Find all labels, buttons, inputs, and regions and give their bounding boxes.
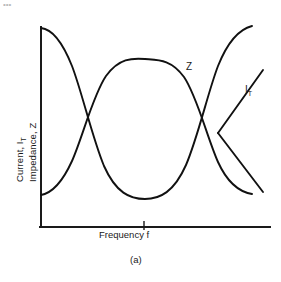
curve-current-it [41, 59, 252, 195]
curve-impedance-z-tail [218, 133, 263, 192]
y-axis-label-line-current: Current, IT [14, 137, 27, 182]
figure-container: ••• Current, IT Impedance, Z Frequency f… [0, 0, 281, 282]
figure-caption: (a) [130, 255, 142, 265]
series-label-current-it: IT [245, 85, 252, 97]
y-axis-label: Current, IT Impedance, Z [9, 42, 43, 182]
y-axis-label-subscript-t: T [20, 137, 27, 141]
series-label-current-subscript-t: T [248, 90, 252, 97]
series-label-impedance-z: Z [186, 62, 192, 73]
x-axis-label: Frequency f [99, 230, 149, 240]
y-axis-label-line-impedance: Impedance, Z [27, 123, 38, 182]
curve-impedance-z [41, 26, 252, 199]
curve-current-it-tail [218, 70, 263, 133]
